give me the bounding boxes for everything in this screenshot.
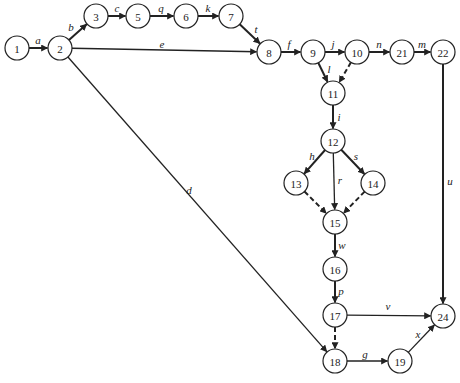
edge-19-24 — [408, 325, 434, 352]
edge-label-d: d — [186, 184, 192, 196]
node-22: 22 — [431, 40, 455, 64]
node-label: 15 — [330, 217, 342, 229]
node-label: 17 — [330, 310, 342, 322]
node-label: 3 — [93, 11, 99, 23]
node-label: 1 — [14, 43, 20, 55]
node-24: 24 — [431, 304, 455, 328]
node-15: 15 — [323, 210, 347, 234]
node-11: 11 — [321, 81, 345, 105]
node-10: 10 — [345, 40, 369, 64]
node-label: 6 — [183, 11, 189, 23]
node-label: 24 — [438, 311, 450, 323]
edge-label-s: s — [354, 150, 358, 162]
node-19: 19 — [388, 349, 412, 373]
node-label: 9 — [310, 47, 316, 59]
node-label: 13 — [291, 178, 303, 190]
edge-label-f: f — [287, 38, 292, 50]
node-label: 10 — [352, 47, 364, 59]
nodes-layer: 1235678910212211121314151617181924 — [5, 4, 455, 373]
node-16: 16 — [323, 257, 347, 281]
node-17: 17 — [323, 303, 347, 327]
edge-label-v: v — [386, 300, 391, 312]
edge-label-a: a — [35, 34, 41, 46]
edge-9-11 — [318, 63, 327, 82]
node-label: 11 — [328, 88, 339, 100]
edge-13-15 — [304, 191, 326, 213]
edge-label-c: c — [115, 2, 120, 14]
edge-10-11 — [339, 62, 351, 82]
edge-label-q: q — [158, 2, 164, 14]
node-3: 3 — [84, 4, 108, 28]
node-6: 6 — [174, 4, 198, 28]
edge-label-i: i — [337, 111, 340, 123]
node-5: 5 — [126, 4, 150, 28]
edge-label-r: r — [338, 174, 343, 186]
edge-label-e: e — [160, 38, 165, 50]
node-label: 7 — [228, 11, 234, 23]
edge-label-m: m — [418, 38, 426, 50]
node-8: 8 — [257, 40, 281, 64]
node-label: 8 — [266, 47, 272, 59]
edge-12-15 — [333, 153, 334, 210]
node-label: 5 — [135, 11, 141, 23]
edge-label-x: x — [415, 328, 421, 340]
node-13: 13 — [284, 171, 308, 195]
node-label: 16 — [330, 264, 342, 276]
edge-label-j: j — [329, 38, 334, 50]
node-label: 21 — [397, 47, 408, 59]
edge-label-h: h — [309, 150, 315, 162]
edge-label-t: t — [254, 23, 258, 35]
edge-17-24 — [347, 315, 431, 316]
node-label: 19 — [395, 356, 407, 368]
node-1: 1 — [5, 36, 29, 60]
edge-label-n: n — [376, 38, 382, 50]
node-21: 21 — [390, 40, 414, 64]
edge-label-p: p — [337, 285, 344, 297]
node-label: 2 — [57, 43, 63, 55]
node-2: 2 — [48, 36, 72, 60]
edge-label-w: w — [338, 239, 346, 251]
edge-2-18 — [68, 57, 327, 352]
node-7: 7 — [219, 4, 243, 28]
edge-label-g: g — [362, 348, 368, 360]
network-diagram: abcqktefjlnmudihsrwpvgx 1235678910212211… — [0, 0, 460, 383]
edge-label-u: u — [447, 175, 453, 187]
edge-14-15 — [344, 192, 365, 213]
edge-12-14 — [341, 150, 364, 174]
node-12: 12 — [321, 129, 345, 153]
node-14: 14 — [361, 171, 385, 195]
edge-label-l: l — [327, 63, 330, 75]
node-label: 18 — [330, 356, 342, 368]
edge-label-b: b — [68, 21, 74, 33]
node-label: 12 — [328, 136, 339, 148]
node-9: 9 — [301, 40, 325, 64]
edge-label-k: k — [206, 2, 212, 14]
node-label: 22 — [438, 47, 449, 59]
node-18: 18 — [323, 349, 347, 373]
node-label: 14 — [368, 178, 380, 190]
